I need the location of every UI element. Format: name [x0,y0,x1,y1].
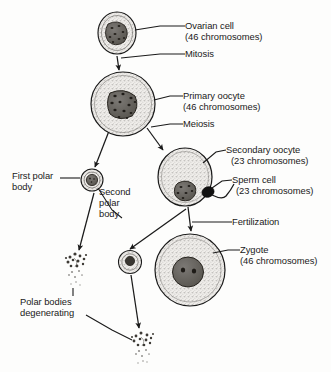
degenerating-polar-body-upper [65,252,87,285]
meiosis-arrow-to-first-polar-body [95,131,109,167]
second-polar-body [119,251,142,274]
first-polar-body-nucleus [86,174,97,185]
label-polar-bodies-degenerating: Polar bodies degenerating [20,296,74,318]
label-fertilization: Fertilization [232,216,279,227]
label-secondary-oocyte: Secondary oocyte [226,144,300,155]
second-polar-body-nucleus [125,256,134,265]
label-ovarian-cell: Ovarian cell [185,20,234,31]
leader-sperm-cell [212,180,232,188]
label-zygote: Zygote [240,244,268,255]
label-primary-oocyte: Primary oocyte [183,90,245,101]
degenerating-polar-body-lower [131,332,154,364]
meiosis-arrow-to-secondary-oocyte [147,128,163,150]
label-sperm-cell: Sperm cell [232,174,276,185]
secondary-oocyte [158,148,212,206]
zygote [155,234,225,306]
second-polar-body-degeneration-arrow [131,275,139,328]
leader-primary-oocyte [154,96,183,100]
leader-polar-bodies-degenerating-lower [86,315,132,340]
leader-meiosis [151,124,183,127]
label-first-polar-body: First polar body [12,170,53,192]
zygote-nucleus [173,257,204,287]
label-zygote-chromosomes: (46 chromosomes) [240,255,317,266]
mitosis-arrow [117,56,119,70]
label-sperm-cell-chromosomes: (23 chromosomes) [236,185,313,196]
label-ovarian-cell-chromosomes: (46 chromosomes) [185,31,262,42]
label-primary-oocyte-chromosomes: (46 chromosomes) [183,101,260,112]
ovarian-cell-nucleus [106,22,128,45]
leader-ovarian-cell [135,26,185,30]
oogenesis-diagram: Ovarian cell (46 chromosomes) Mitosis Pr… [0,0,331,372]
ovarian-cell [98,12,136,54]
secondary-oocyte-nucleus [174,181,195,201]
primary-oocyte-nucleus [108,91,137,119]
label-secondary-oocyte-chromosomes: (23 chromosomes) [231,155,308,166]
fertilization-arrow-to-zygote [188,207,191,231]
first-polar-body-degeneration-arrow [79,193,94,250]
leader-mitosis [121,54,185,58]
primary-oocyte [91,72,155,136]
label-mitosis: Mitosis [185,48,214,59]
label-second-polar-body: Second polar body [99,186,131,219]
label-meiosis: Meiosis [183,118,214,129]
